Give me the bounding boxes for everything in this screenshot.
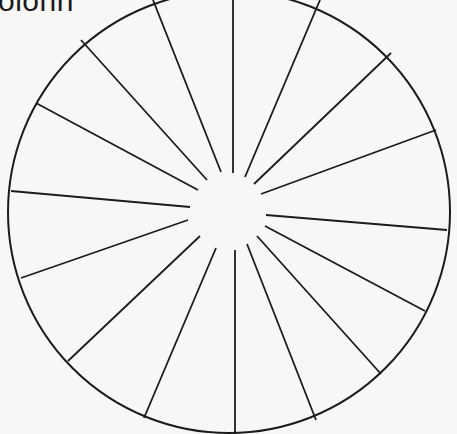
spoke-right — [266, 215, 447, 230]
spoke-bottom-right-1 — [265, 226, 425, 311]
spoked-wheel-diagram — [0, 0, 457, 434]
spoke-left — [11, 191, 190, 207]
spoke-top-left-2 — [81, 40, 207, 180]
spoke-top-left-1 — [36, 103, 198, 190]
spoke-bottom-left-3 — [21, 220, 188, 278]
spoke-bottom-right-2 — [257, 236, 381, 374]
spoke-bottom-left-1 — [144, 248, 216, 418]
spoke-bottom-right-3 — [247, 244, 316, 420]
spoke-top-right-2 — [254, 53, 391, 184]
spoke-top-left-3 — [153, 0, 221, 172]
spoke-top-right-3 — [261, 130, 436, 194]
spoke-top-right-1 — [245, 0, 320, 177]
outer-circle — [8, 0, 450, 433]
spokes-group — [11, 0, 447, 434]
